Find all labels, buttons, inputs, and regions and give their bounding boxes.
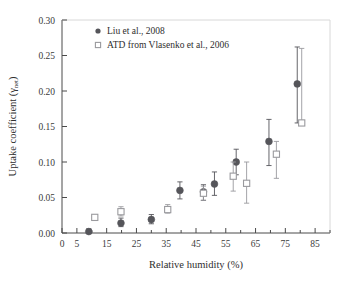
x-tick-label: 45 xyxy=(191,239,201,249)
legend-marker-filled-circle xyxy=(95,28,100,33)
y-tick-label: 0.15 xyxy=(38,122,55,132)
data-point xyxy=(200,190,206,196)
axis-spines xyxy=(62,20,330,233)
chart-figure: 0515253545556575850.000.050.100.150.200.… xyxy=(0,0,348,285)
data-point xyxy=(118,209,124,215)
y-tick-label: 0.05 xyxy=(38,193,55,203)
data-point xyxy=(211,181,218,188)
x-tick-label: 75 xyxy=(281,239,291,249)
series-atd-vlasenko-2006 xyxy=(92,48,305,220)
data-point xyxy=(273,151,279,157)
data-point xyxy=(92,214,98,220)
x-tick-label: 25 xyxy=(132,239,142,249)
series-liu-2008 xyxy=(85,47,300,235)
data-point xyxy=(266,138,273,145)
scatter-plot-canvas: 0515253545556575850.000.050.100.150.200.… xyxy=(0,0,348,285)
data-point xyxy=(148,216,155,223)
data-point xyxy=(294,81,301,88)
x-tick-label: 55 xyxy=(221,239,231,249)
y-axis-title: Uptake coefficient (γnet) xyxy=(7,76,19,176)
data-point xyxy=(177,187,184,194)
data-point xyxy=(118,220,125,227)
data-point xyxy=(85,228,92,235)
legend-label: Liu et al., 2008 xyxy=(107,26,165,36)
y-tick-label: 0.25 xyxy=(38,51,55,61)
legend-marker-open-square xyxy=(95,42,100,47)
x-tick-label: 35 xyxy=(161,239,171,249)
y-tick-label: 0.00 xyxy=(38,229,55,239)
x-tick-label: 15 xyxy=(102,239,112,249)
data-point xyxy=(299,120,305,126)
x-tick-label: 65 xyxy=(251,239,261,249)
y-tick-label: 0.20 xyxy=(38,87,55,97)
y-tick-label: 0.30 xyxy=(38,16,55,26)
x-tick-label: 0 xyxy=(60,239,65,249)
y-tick-label: 0.10 xyxy=(38,158,55,168)
data-point xyxy=(165,206,171,212)
plot-frame xyxy=(62,20,330,233)
data-point xyxy=(230,173,236,179)
x-tick-label: 5 xyxy=(75,239,80,249)
legend-label: ATD from Vlasenko et al., 2006 xyxy=(107,40,229,50)
x-axis-title: Relative humidity (%) xyxy=(149,259,243,271)
error-bar xyxy=(274,141,279,178)
data-point xyxy=(244,180,250,186)
x-tick-label: 85 xyxy=(310,239,320,249)
